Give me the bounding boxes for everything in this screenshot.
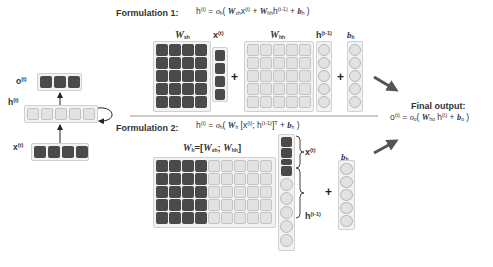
formulation1-title: Formulation 1: xyxy=(116,8,179,18)
final-output-title: Final output: xyxy=(411,101,465,111)
vector-bh xyxy=(347,41,363,112)
formulation1-equation: h(t) = σh( Wxhx(t) + Whhh(t-1) + bh ) xyxy=(196,6,310,16)
matrix-whh-label: Whh xyxy=(270,29,285,40)
plus-sign-3: + xyxy=(325,185,332,199)
vector-h-prev-label: h(t-1) xyxy=(316,30,332,40)
matrix-whh xyxy=(244,41,314,112)
vector-bh-label: bh xyxy=(347,30,355,40)
matrix-wh-combined xyxy=(153,157,276,228)
recurrent-loop-arrow xyxy=(98,108,112,121)
plus-sign-2: + xyxy=(337,70,344,84)
vector-x xyxy=(212,47,228,102)
formulation2-equation: h(t) = σh( Wh [x(t); h(t-1)]T + bh ) xyxy=(196,120,300,130)
brace-x-label: x(t) xyxy=(305,147,316,157)
vector-bh2 xyxy=(338,160,355,230)
brace-h xyxy=(296,168,304,218)
brace-h-label: h(t-1) xyxy=(305,211,321,221)
vector-x-label: x(t) xyxy=(213,30,224,40)
vector-h-prev xyxy=(316,41,332,112)
formulation2-title: Formulation 2: xyxy=(116,123,179,133)
final-output-equation: o(t) = σo( Who h(t) + bo ) xyxy=(390,112,469,122)
plus-sign-1: + xyxy=(231,70,238,84)
matrix-wxh-label: Wxh xyxy=(175,29,190,40)
formulation2-to-output-arrow xyxy=(374,141,396,153)
formulation1-to-output-arrow xyxy=(374,77,396,90)
matrix-wh-label: Wh=[Wxh; Whh] xyxy=(183,142,241,153)
matrix-wxh xyxy=(153,41,211,112)
vector-concat-x-h xyxy=(278,134,295,251)
brace-x xyxy=(296,136,304,168)
